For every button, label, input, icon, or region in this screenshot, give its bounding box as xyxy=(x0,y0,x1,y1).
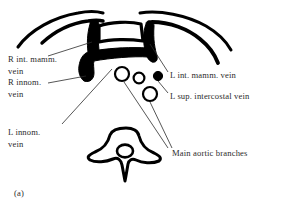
label-main-aortic-branches: Main aortic branches xyxy=(172,148,248,160)
label-l-sup-intercostal-vein: L sup. intercostal vein xyxy=(170,91,250,103)
label-r-innom-vein: R innom. vein xyxy=(8,77,41,100)
leader-line-main-aortic-2 xyxy=(150,102,172,148)
leader-line-main-aortic-1 xyxy=(124,82,168,148)
label-r-int-mamm-vein: R int. mamm. vein xyxy=(8,54,57,77)
left-internal-mammary-vein xyxy=(153,71,162,80)
aortic-branch-vessel-3 xyxy=(143,87,157,101)
aortic-branch-vessel-2 xyxy=(134,73,145,84)
figure-caption: (a) xyxy=(14,188,24,200)
leader-line-l-sup-intercostal xyxy=(158,81,168,93)
vertebral-body xyxy=(88,128,160,181)
sternum-manubrium xyxy=(99,22,143,42)
spinal-canal xyxy=(117,145,133,158)
label-l-int-mamm-vein: L int. mamm. vein xyxy=(170,70,236,82)
anatomical-figure: R int. mamm. vein R innom. vein L innom.… xyxy=(0,0,301,207)
leader-line-r-innom xyxy=(48,76,86,83)
aortic-branch-vessel-1 xyxy=(115,67,129,81)
anatomy-drawing xyxy=(0,0,301,207)
label-l-innom-vein: L innom. vein xyxy=(8,127,40,150)
